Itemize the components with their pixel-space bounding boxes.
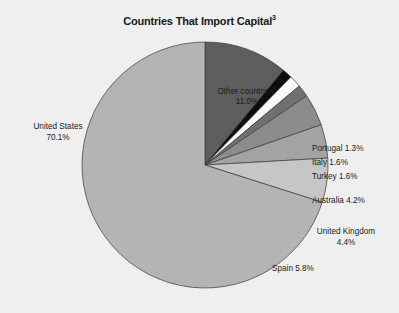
pie-label-other-countries: Other countries4 11.0% — [196, 83, 298, 108]
pie-chart-figure: Countries That Import Capital3 Other cou… — [0, 0, 399, 313]
pie-slice-group: Other countries 11.0%Portugal 1.3%Italy … — [82, 42, 328, 288]
pie-label-turkey: Turkey 1.6% — [312, 172, 358, 183]
pie-label-united-kingdom-name: United Kingdom — [298, 227, 394, 238]
pie-label-italy: Italy 1.6% — [312, 158, 348, 169]
pie-label-united-states-value: 70.1% — [16, 133, 100, 144]
pie-label-united-states-name: United States — [16, 122, 100, 133]
pie-label-spain: Spain 5.8% — [272, 264, 314, 275]
pie-label-united-kingdom: United Kingdom 4.4% — [298, 227, 394, 248]
pie-label-other-countries-text: Other countries — [217, 87, 273, 96]
pie-label-other-countries-footnote-marker: 4 — [273, 85, 276, 91]
pie-label-other-countries-name: Other countries4 — [196, 83, 298, 97]
pie-label-australia: Australia 4.2% — [312, 196, 365, 207]
pie-chart-graphic: Other countries 11.0%Portugal 1.3%Italy … — [0, 0, 399, 313]
pie-label-united-kingdom-value: 4.4% — [298, 238, 394, 249]
pie-label-other-countries-value: 11.0% — [196, 97, 298, 108]
pie-label-united-states: United States 70.1% — [16, 122, 100, 143]
pie-label-portugal: Portugal 1.3% — [312, 144, 363, 155]
